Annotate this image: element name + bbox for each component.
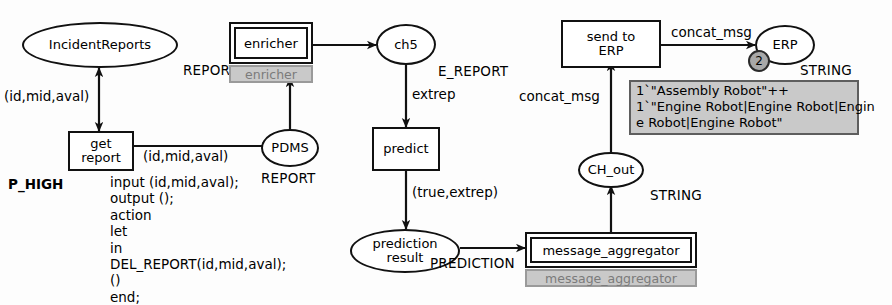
place-erp-token-count[interactable]: 2: [748, 50, 770, 72]
place-pdms-label: PDMS: [271, 141, 308, 155]
message-aggregator-box[interactable]: message_aggregator: [525, 232, 697, 268]
place-prediction-result-label-line2: result: [387, 251, 424, 265]
place-pdms[interactable]: PDMS: [261, 129, 319, 167]
erp-marking-annotation[interactable]: 1`"Assembly Robot"++ 1`"Engine Robot|Eng…: [629, 80, 859, 135]
substitution-transition-message-aggregator[interactable]: message_aggregator message_aggregator: [525, 232, 697, 287]
place-ch5-label: ch5: [394, 38, 418, 52]
enricher-label: enricher: [244, 36, 298, 51]
arc-label-get-report-to-pdms: (id,mid,aval): [143, 148, 228, 164]
place-ch5-type: E_REPORT: [438, 63, 508, 79]
enricher-label-box: enricher: [234, 27, 308, 59]
transition-get-report[interactable]: get report: [68, 131, 134, 171]
enricher-box[interactable]: enricher: [229, 22, 313, 64]
transition-predict-label: predict: [383, 142, 428, 156]
transition-get-report-line1: get: [90, 137, 111, 151]
transition-send-to-erp-line2: ERP: [598, 44, 623, 58]
place-ch-out-type: STRING: [650, 187, 702, 203]
transition-predict[interactable]: predict: [372, 127, 440, 171]
cpn-diagram-canvas: IncidentReports REPORT PDMS REPORT ch5 E…: [0, 0, 892, 305]
place-incident-reports[interactable]: IncidentReports: [22, 22, 178, 68]
transition-send-to-erp[interactable]: send to ERP: [561, 20, 661, 68]
message-aggregator-label-box: message_aggregator: [530, 237, 692, 263]
arc-label-ch-out-to-send-to-erp: concat_msg: [519, 88, 600, 104]
place-ch-out-label: CH_out: [588, 163, 635, 177]
arc-label-incident-to-get-report: (id,mid,aval): [4, 88, 89, 104]
message-aggregator-subpage-tag[interactable]: message_aggregator: [525, 269, 697, 287]
arc-label-ch5-to-predict: extrep: [412, 86, 455, 102]
arc-label-send-to-erp-to-erp: concat_msg: [671, 24, 752, 40]
place-erp-label: ERP: [772, 38, 797, 52]
place-prediction-result-label-line1: prediction: [372, 237, 437, 251]
place-incident-reports-label: IncidentReports: [49, 38, 151, 52]
transition-get-report-line2: report: [81, 151, 121, 165]
place-erp-type: STRING: [800, 62, 852, 78]
enricher-subpage-tag[interactable]: enricher: [229, 65, 313, 83]
place-prediction-result-type: PREDICTION: [430, 255, 515, 271]
place-ch5[interactable]: ch5: [376, 24, 436, 65]
get-report-code-block: input (id,mid,aval); output (); action l…: [110, 174, 286, 305]
transition-get-report-priority: P_HIGH: [8, 176, 63, 192]
substitution-transition-enricher[interactable]: enricher enricher: [229, 22, 313, 83]
message-aggregator-label: message_aggregator: [542, 243, 679, 258]
place-ch-out[interactable]: CH_out: [578, 152, 644, 188]
arc-label-predict-to-prediction-result: (true,extrep): [412, 184, 498, 200]
transition-send-to-erp-line1: send to: [587, 30, 635, 44]
